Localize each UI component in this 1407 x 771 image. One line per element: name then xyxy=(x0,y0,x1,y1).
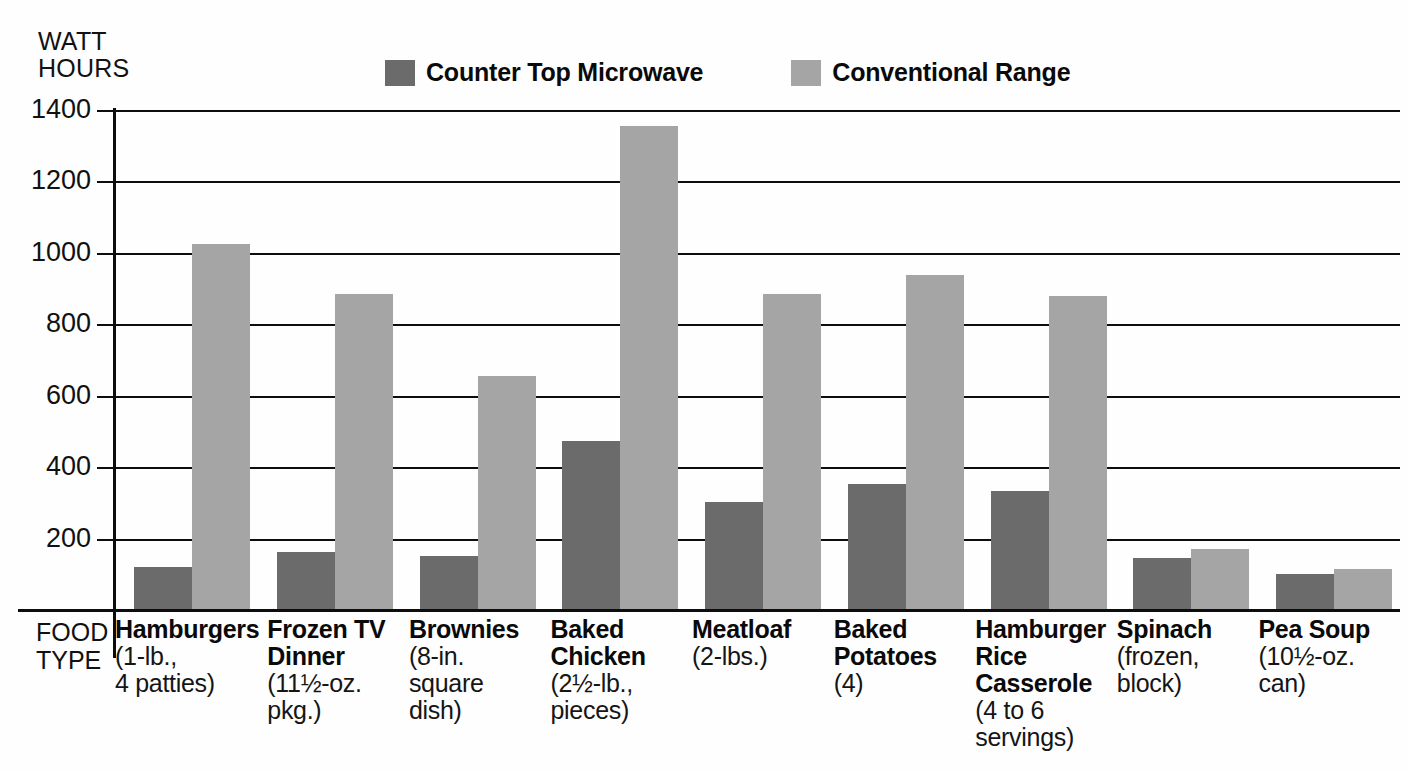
bar-range xyxy=(478,376,536,610)
category-label: Spinach(frozen, block) xyxy=(1117,616,1259,766)
bar-range xyxy=(1334,569,1392,610)
bar-group xyxy=(1257,110,1400,610)
bar-range xyxy=(906,275,964,610)
category-label: Hamburger Rice Casserole(4 to 6 servings… xyxy=(975,616,1117,766)
bar-microwave xyxy=(277,552,335,610)
bar-microwave xyxy=(705,502,763,610)
category-label: Baked Potatoes(4) xyxy=(834,616,976,766)
bar-group xyxy=(829,110,972,610)
category-name: Hamburger Rice Casserole xyxy=(975,616,1109,697)
bar-microwave xyxy=(1276,574,1334,610)
bar-group xyxy=(258,110,401,610)
bar-group xyxy=(401,110,544,610)
y-tick-label: 800 xyxy=(0,310,91,337)
category-label: Meatloaf(2-lbs.) xyxy=(692,616,834,766)
bar-range xyxy=(192,244,250,610)
bar-range xyxy=(620,126,678,610)
category-note: (frozen, block) xyxy=(1117,643,1251,697)
bar-range xyxy=(1191,549,1249,610)
y-tick-label: 200 xyxy=(0,525,91,552)
category-name: Baked Chicken xyxy=(550,616,684,670)
category-label: Brownies(8-in. square dish) xyxy=(409,616,551,766)
category-note: (10½-oz. can) xyxy=(1258,643,1392,697)
legend-swatch-icon xyxy=(385,60,415,86)
category-name: Brownies xyxy=(409,616,543,643)
category-label: Frozen TV Dinner(11½-oz. pkg.) xyxy=(267,616,409,766)
bar-group xyxy=(1114,110,1257,610)
bar-group xyxy=(972,110,1115,610)
category-note: (2½-lb., pieces) xyxy=(550,670,684,724)
category-labels: Hamburgers(1-lb., 4 patties)Frozen TV Di… xyxy=(115,616,1400,766)
bar-range xyxy=(1049,296,1107,610)
category-name: Meatloaf xyxy=(692,616,826,643)
y-axis-line xyxy=(113,108,116,612)
chart-legend: Counter Top MicrowaveConventional Range xyxy=(385,58,1070,87)
bar-groups xyxy=(115,110,1400,610)
category-name: Pea Soup xyxy=(1258,616,1392,643)
category-name: Hamburgers xyxy=(115,616,259,643)
x-axis-title: FOOD TYPE xyxy=(36,618,108,674)
y-tick-label: 1400 xyxy=(0,96,91,123)
chart-page: WATT HOURS Counter Top MicrowaveConventi… xyxy=(0,0,1407,771)
category-note: (1-lb., 4 patties) xyxy=(115,643,259,697)
legend-label: Conventional Range xyxy=(832,58,1070,87)
bar-microwave xyxy=(991,491,1049,610)
y-tick-label: 1200 xyxy=(0,167,91,194)
category-label: Baked Chicken(2½-lb., pieces) xyxy=(550,616,692,766)
y-axis-title: WATT HOURS xyxy=(38,28,129,82)
y-tick-label: 1000 xyxy=(0,239,91,266)
category-note: (4) xyxy=(834,670,968,697)
category-name: Frozen TV Dinner xyxy=(267,616,401,670)
bar-group xyxy=(543,110,686,610)
legend-swatch-icon xyxy=(791,60,821,86)
bar-microwave xyxy=(420,556,478,610)
y-tick-label: 600 xyxy=(0,382,91,409)
bar-group xyxy=(686,110,829,610)
bar-microwave xyxy=(848,484,906,610)
bar-group xyxy=(115,110,258,610)
category-label: Hamburgers(1-lb., 4 patties) xyxy=(115,616,267,766)
category-name: Baked Potatoes xyxy=(834,616,968,670)
category-note: (4 to 6 servings) xyxy=(975,697,1109,751)
category-note: (11½-oz. pkg.) xyxy=(267,670,401,724)
legend-item-range: Conventional Range xyxy=(791,58,1070,87)
plot-area: 200400600800100012001400 xyxy=(115,110,1400,610)
bar-range xyxy=(335,294,393,610)
bar-microwave xyxy=(134,567,192,610)
category-note: (2-lbs.) xyxy=(692,643,826,670)
x-axis-line xyxy=(18,609,1400,612)
category-label: Pea Soup(10½-oz. can) xyxy=(1258,616,1400,766)
legend-label: Counter Top Microwave xyxy=(426,58,703,87)
legend-item-microwave: Counter Top Microwave xyxy=(385,58,703,87)
bar-microwave xyxy=(1133,558,1191,610)
bar-microwave xyxy=(562,441,620,610)
bar-range xyxy=(763,294,821,610)
y-tick-label: 400 xyxy=(0,453,91,480)
category-note: (8-in. square dish) xyxy=(409,643,543,724)
category-name: Spinach xyxy=(1117,616,1251,643)
